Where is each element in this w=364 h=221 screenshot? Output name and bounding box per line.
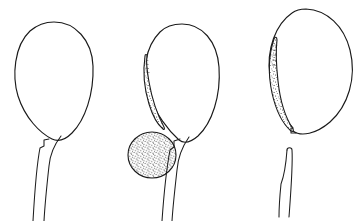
figure-illustration bbox=[0, 0, 364, 221]
background bbox=[0, 0, 364, 221]
figure-canvas bbox=[0, 0, 364, 221]
